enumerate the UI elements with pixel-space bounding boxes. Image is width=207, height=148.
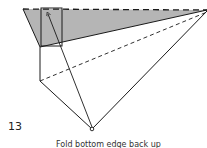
shaded-flap: [23, 9, 207, 47]
lower-left-edge: [40, 81, 92, 129]
figure-caption: Fold bottom edge back up: [56, 140, 161, 148]
pivot-marker: [90, 127, 94, 131]
step-number: 13: [8, 120, 22, 133]
origami-fold-diagram: [0, 0, 207, 148]
